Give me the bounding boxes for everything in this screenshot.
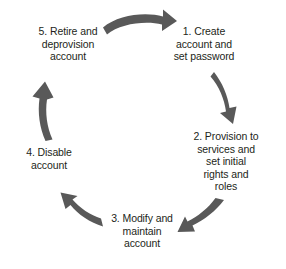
stage-label-3: 3. Modify and maintain account bbox=[100, 212, 184, 250]
arrow-1-to-2-icon bbox=[211, 72, 237, 124]
stage-label-4: 4. Disable account bbox=[12, 146, 86, 171]
stage-label-2: 2. Provision to services and set initial… bbox=[186, 130, 266, 193]
arrow-4-to-5-icon bbox=[33, 82, 54, 142]
stage-label-5: 5. Retire and deprovision account bbox=[22, 25, 114, 63]
account-lifecycle-diagram: 1. Create account and set password 2. Pr… bbox=[0, 0, 286, 269]
arrow-2-to-3-icon bbox=[178, 198, 225, 232]
stage-label-1: 1. Create account and set password bbox=[168, 25, 240, 63]
arrow-5-to-1-icon bbox=[103, 10, 177, 35]
arrow-3-to-4-icon bbox=[61, 193, 104, 227]
